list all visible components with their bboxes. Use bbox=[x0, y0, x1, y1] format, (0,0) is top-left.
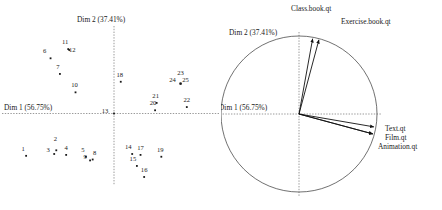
scatter-point-label: 2 bbox=[54, 135, 57, 142]
scatter-point-label: 7 bbox=[56, 63, 60, 70]
label-film: Film.qt bbox=[385, 133, 408, 142]
scatter-point-label: 3 bbox=[47, 146, 51, 153]
scatter-point-label: 12 bbox=[69, 46, 76, 53]
scatter-point bbox=[113, 113, 115, 115]
scatter-point-label: 5 bbox=[81, 146, 85, 153]
scatter-point-label: 22 bbox=[184, 96, 191, 103]
scatter-point bbox=[140, 154, 142, 156]
scatter-point bbox=[59, 73, 61, 75]
scatter-point bbox=[55, 149, 57, 151]
scatter-point-label: 4 bbox=[65, 144, 69, 151]
scatter-point-label: 17 bbox=[137, 144, 144, 151]
variable-arrow bbox=[299, 114, 374, 127]
label-class-book: Class.book.qt bbox=[291, 4, 332, 13]
scatter-point-label: 25 bbox=[182, 76, 189, 83]
scatter-point bbox=[160, 156, 162, 158]
scatter-point bbox=[89, 160, 91, 162]
scatter-point bbox=[120, 81, 122, 83]
scatter-point bbox=[65, 154, 67, 156]
y-axis-label: Dim 2 (37.41%) bbox=[229, 28, 278, 37]
variable-arrows-group bbox=[299, 39, 374, 134]
scatter-point bbox=[92, 159, 94, 161]
scatter-point-label: 23 bbox=[177, 69, 184, 76]
scatter-point-label: 16 bbox=[141, 166, 148, 173]
scatter-point bbox=[180, 83, 182, 85]
variable-arrow bbox=[299, 39, 313, 114]
scatter-point bbox=[143, 176, 145, 178]
scatter-point bbox=[75, 91, 77, 93]
label-exercise-book: Exercise.book.qt bbox=[341, 17, 392, 26]
scatter-point-label: 15 bbox=[130, 155, 137, 162]
scatter-point-label: 24 bbox=[169, 76, 176, 83]
variable-arrow bbox=[299, 40, 319, 114]
variables-correlation-circle: Dim 1 (56.75%) Dim 2 (37.41%) Class.book… bbox=[221, 0, 442, 210]
scatter-point-label: 19 bbox=[157, 146, 164, 153]
left-plot-svg: Dim 1 (56.75%) Dim 2 (37.41%) 1234567891… bbox=[0, 0, 221, 210]
scatter-point bbox=[25, 155, 27, 157]
individuals-factor-map: Dim 1 (56.75%) Dim 2 (37.41%) 1234567891… bbox=[0, 0, 221, 210]
scatter-point-label: 9 bbox=[83, 153, 87, 160]
scatter-point bbox=[53, 153, 55, 155]
scatter-point-label: 1 bbox=[21, 145, 24, 152]
scatter-point-label: 21 bbox=[152, 92, 159, 99]
scatter-point-label: 11 bbox=[62, 38, 68, 45]
label-text: Text.qt bbox=[385, 124, 407, 133]
scatter-point-label: 10 bbox=[71, 81, 78, 88]
y-axis-label: Dim 2 (37.41%) bbox=[77, 15, 126, 24]
x-axis-label: Dim 1 (56.75%) bbox=[221, 103, 268, 112]
scatter-point-label: 13 bbox=[102, 107, 109, 114]
scatter-point-label: 6 bbox=[43, 47, 47, 54]
variable-arrow bbox=[299, 114, 373, 134]
right-plot-svg: Dim 1 (56.75%) Dim 2 (37.41%) Class.book… bbox=[221, 0, 442, 210]
scatter-point-label: 18 bbox=[116, 71, 123, 78]
scatter-point bbox=[50, 57, 52, 59]
figure-root: Dim 1 (56.75%) Dim 2 (37.41%) 1234567891… bbox=[0, 0, 442, 210]
scatter-point bbox=[154, 109, 156, 111]
label-animation: Animation.qt bbox=[378, 142, 418, 151]
scatter-point bbox=[186, 106, 188, 108]
scatter-point-label: 8 bbox=[93, 149, 97, 156]
scatter-point bbox=[136, 165, 138, 167]
scatter-point bbox=[156, 102, 158, 104]
scatter-point-label: 14 bbox=[125, 143, 132, 150]
x-axis-label: Dim 1 (56.75%) bbox=[4, 103, 53, 112]
